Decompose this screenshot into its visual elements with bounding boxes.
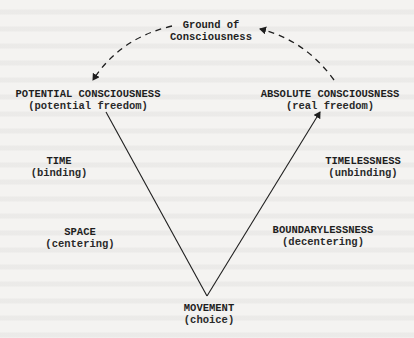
node-title: POTENTIAL CONSCIOUSNESS	[16, 88, 161, 100]
node-space: SPACE (centering)	[45, 226, 114, 250]
node-title: TIMELESSNESS	[325, 155, 401, 167]
node-title: ABSOLUTE CONSCIOUSNESS	[261, 88, 400, 100]
node-subtitle: (choice)	[184, 314, 234, 326]
node-title: MOVEMENT	[184, 302, 234, 314]
node-title: TIME	[31, 155, 88, 167]
node-subtitle: (potential freedom)	[16, 100, 161, 112]
node-timelessness: TIMELESSNESS (unbinding)	[325, 155, 401, 179]
node-boundarylessness: BOUNDARYLESSNESS (decentering)	[273, 224, 374, 248]
dashed-arrow-to-potential	[93, 26, 172, 80]
node-title: SPACE	[45, 226, 114, 238]
node-title: Ground of	[170, 19, 252, 31]
node-ground-of-consciousness: Ground of Consciousness	[170, 19, 252, 43]
node-potential-consciousness: POTENTIAL CONSCIOUSNESS (potential freed…	[16, 88, 161, 112]
diagram-page: Ground of Consciousness POTENTIAL CONSCI…	[0, 0, 414, 338]
arrow-movement-to-absolute	[207, 112, 320, 296]
node-subtitle: (real freedom)	[261, 100, 400, 112]
node-title: BOUNDARYLESSNESS	[273, 224, 374, 236]
node-absolute-consciousness: ABSOLUTE CONSCIOUSNESS (real freedom)	[261, 88, 400, 112]
node-subtitle: (unbinding)	[325, 167, 401, 179]
node-subtitle: (binding)	[31, 167, 88, 179]
node-subtitle: (centering)	[45, 238, 114, 250]
node-subtitle: (decentering)	[273, 236, 374, 248]
line-potential-to-movement	[106, 112, 207, 296]
dashed-arrow-to-ground	[260, 29, 334, 80]
node-movement: MOVEMENT (choice)	[184, 302, 234, 326]
node-time: TIME (binding)	[31, 155, 88, 179]
node-title-line2: Consciousness	[170, 31, 252, 43]
